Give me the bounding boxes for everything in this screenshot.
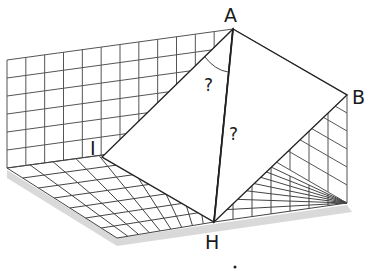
plane-AIH <box>102 29 233 222</box>
point-label-B: B <box>352 86 365 108</box>
dot-mark <box>234 266 237 269</box>
room-diagram: A B I H ? ? <box>0 0 371 271</box>
point-label-H: H <box>205 231 219 253</box>
length-question-mark: ? <box>229 124 238 144</box>
point-label-I: I <box>90 137 96 159</box>
diagram-stage: A B I H ? ? <box>0 0 371 271</box>
point-label-A: A <box>224 4 237 26</box>
angle-question-mark: ? <box>204 75 213 95</box>
